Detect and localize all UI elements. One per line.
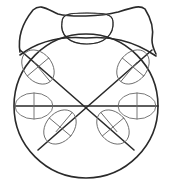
- anatomical-diagram: [0, 0, 173, 180]
- oval-upper-right: [110, 43, 156, 90]
- diagonal-divider-a: [20, 50, 134, 150]
- oval-upper-left: [15, 43, 61, 90]
- cap-outline: [19, 7, 156, 54]
- oval-lower-right: [90, 103, 136, 150]
- oval-lower-left: [37, 103, 83, 150]
- cap-inner-oval-outline: [62, 13, 113, 44]
